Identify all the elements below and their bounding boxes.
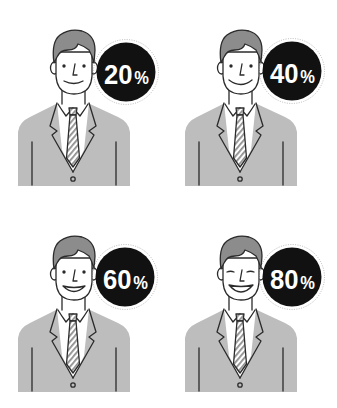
figure-80-percent: 80% <box>185 236 325 392</box>
eye-icon <box>82 270 85 273</box>
figure-60-percent: 60% <box>18 236 158 392</box>
closed-eye-icon <box>247 271 254 272</box>
eye-icon <box>82 64 85 67</box>
eye-icon <box>62 64 65 67</box>
figure-40-percent: 40% <box>185 30 325 186</box>
eye-icon <box>249 64 252 67</box>
closed-eye-icon <box>227 271 234 272</box>
eye-icon <box>62 270 65 273</box>
eye-icon <box>229 64 232 67</box>
figure-20-percent: 20% <box>18 30 159 186</box>
percentage-illustration-grid: 20% 40% 60% 80% <box>0 0 337 408</box>
